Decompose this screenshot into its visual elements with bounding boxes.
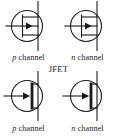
caption-bottom-left: p channel bbox=[0, 124, 57, 133]
jfet-symbol-top-right bbox=[59, 1, 116, 51]
jfet-symbol-bottom-right bbox=[59, 71, 116, 121]
caption-channel-word: channel bbox=[16, 53, 44, 62]
caption-top-left: p channel bbox=[0, 53, 57, 62]
caption-channel-word: channel bbox=[75, 124, 103, 133]
channel-bar-solid bbox=[90, 83, 93, 110]
jfet-symbols-figure: p channel n channel JFET p channel n cha… bbox=[0, 0, 117, 139]
figure-center-label: JFET bbox=[0, 64, 117, 74]
channel-bar-solid bbox=[31, 83, 34, 110]
gate-arrow-head bbox=[23, 92, 30, 99]
gate-arrow-head bbox=[26, 23, 33, 30]
gate-arrow-head bbox=[82, 92, 89, 99]
jfet-symbol-top-left bbox=[0, 1, 57, 51]
jfet-symbol-bottom-left bbox=[0, 71, 57, 121]
caption-channel-word: channel bbox=[75, 53, 103, 62]
caption-bottom-right: n channel bbox=[59, 124, 116, 133]
caption-top-right: n channel bbox=[59, 53, 116, 62]
gate-arrow-head bbox=[85, 23, 92, 30]
caption-channel-word: channel bbox=[16, 124, 44, 133]
